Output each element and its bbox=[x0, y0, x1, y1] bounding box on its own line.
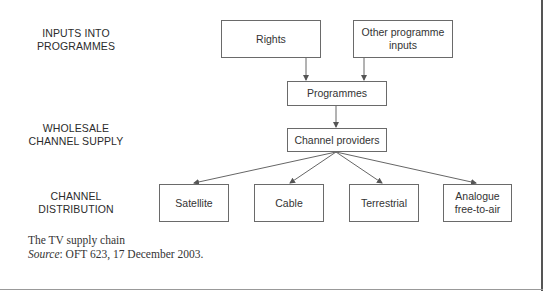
node-other-programme-inputs: Other programme inputs bbox=[353, 20, 453, 58]
node-label: Other programme bbox=[362, 26, 445, 39]
caption-source: Source: OFT 623, 17 December 2003. bbox=[28, 247, 203, 261]
node-cable: Cable bbox=[254, 184, 324, 222]
arrow-providers-to-analogue bbox=[336, 152, 476, 183]
node-rights: Rights bbox=[221, 20, 321, 58]
node-analogue-free-to-air: Analogue free-to-air bbox=[443, 184, 512, 222]
node-label: Terrestrial bbox=[361, 197, 407, 210]
node-label: inputs bbox=[389, 39, 417, 52]
node-label: free-to-air bbox=[455, 203, 501, 216]
node-channel-providers: Channel providers bbox=[287, 128, 387, 152]
node-label: Analogue bbox=[455, 190, 499, 203]
node-label: Channel providers bbox=[294, 134, 379, 147]
arrow-providers-to-satellite bbox=[194, 152, 336, 183]
node-satellite: Satellite bbox=[159, 184, 229, 222]
node-programmes: Programmes bbox=[287, 81, 387, 106]
source-text: : OFT 623, 17 December 2003. bbox=[60, 248, 204, 260]
caption-title: The TV supply chain bbox=[28, 233, 203, 247]
node-label: Cable bbox=[275, 197, 302, 210]
node-terrestrial: Terrestrial bbox=[349, 184, 419, 222]
node-label: Programmes bbox=[307, 87, 367, 100]
source-label: Source bbox=[28, 248, 60, 260]
node-label: Rights bbox=[256, 33, 286, 46]
figure-caption: The TV supply chain Source: OFT 623, 17 … bbox=[28, 233, 203, 261]
node-label: Satellite bbox=[175, 197, 212, 210]
